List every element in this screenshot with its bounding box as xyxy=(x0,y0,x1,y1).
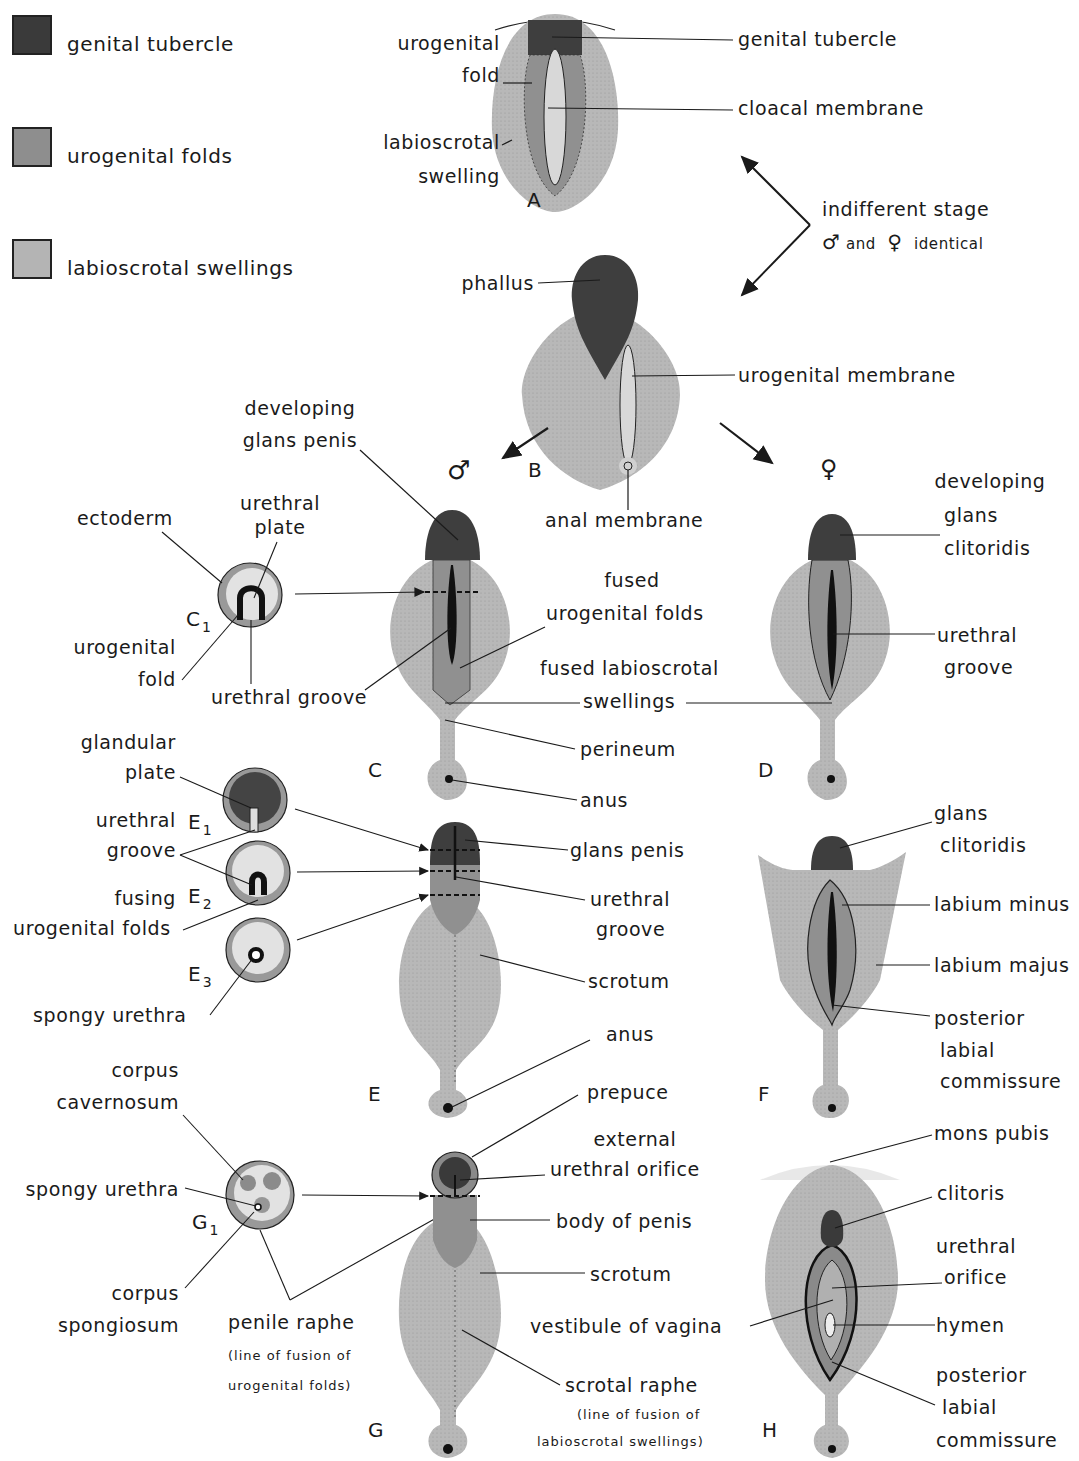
label-c1-urogenital: urogenital xyxy=(73,632,176,663)
label-g1-note-1: (line of fusion of xyxy=(228,1346,351,1366)
figure-c xyxy=(390,510,510,800)
label-c1-ectoderm: ectoderm xyxy=(77,503,173,534)
label-c1-plate: plate xyxy=(240,512,320,543)
section-subscript: 1 xyxy=(210,1222,219,1238)
label-d-urethral: urethral xyxy=(937,620,1017,651)
label-f-clitoridis: clitoridis xyxy=(940,830,1026,861)
section-e2 xyxy=(226,841,290,905)
label-e-panel-urethral: urethral xyxy=(590,884,670,915)
label-indifferent-stage: indifferent stage xyxy=(822,194,989,225)
legend-genital-tubercle: genital tubercle xyxy=(67,32,234,56)
indifferent-arrows xyxy=(742,157,810,295)
label-g1-note-2: urogenital folds) xyxy=(228,1376,351,1396)
label-e-groove: groove xyxy=(107,835,176,866)
figure-d xyxy=(770,514,890,800)
label-a-fold: fold xyxy=(462,60,500,91)
label-e-fusing: fusing xyxy=(114,883,176,914)
label-c-developing: developing xyxy=(230,393,370,424)
female-symbol-icon: ♀ xyxy=(887,230,902,254)
male-symbol-icon: ♂ xyxy=(447,455,470,485)
figure-b xyxy=(522,255,680,490)
panel-letter-e: E xyxy=(368,1082,381,1106)
label-e-plate: plate xyxy=(125,757,176,788)
label-c-perineum: perineum xyxy=(580,734,676,765)
label-h-orifice: orifice xyxy=(944,1262,1007,1293)
label-a-labioscrotal: labioscrotal xyxy=(383,127,500,158)
label-h-commissure: commissure xyxy=(936,1425,1057,1456)
label-g-scrotal-raphe: scrotal raphe xyxy=(565,1370,698,1401)
label-g1-spongy-urethra: spongy urethra xyxy=(26,1174,179,1205)
section-label-e1: E1 xyxy=(188,810,212,838)
label-d-clitoridis: clitoridis xyxy=(944,533,1030,564)
label-d-developing: developing xyxy=(925,466,1055,497)
panel-letter-b: B xyxy=(528,458,542,482)
section-c1 xyxy=(218,563,282,627)
panel-letter-h: H xyxy=(762,1418,777,1442)
label-g-prepuce: prepuce xyxy=(587,1077,669,1108)
label-e-glans-penis: glans penis xyxy=(570,835,685,866)
legend-swatches xyxy=(13,16,51,278)
male-symbol-icon: ♂ xyxy=(822,230,841,254)
panel-letter-a: A xyxy=(527,188,541,212)
label-b-anal-membrane: anal membrane xyxy=(545,505,703,536)
label-a-swelling: swelling xyxy=(418,161,500,192)
label-h-hymen: hymen xyxy=(936,1310,1005,1341)
section-subscript: 2 xyxy=(203,896,212,912)
label-g1-corpus-2: corpus xyxy=(112,1278,179,1309)
label-e-urogenital-folds: urogenital folds xyxy=(13,913,171,944)
label-and: and xyxy=(846,235,876,253)
label-c-urogenital-folds: urogenital folds xyxy=(546,598,704,629)
label-a-genital-tubercle: genital tubercle xyxy=(738,24,897,55)
label-g1-cavernosum: cavernosum xyxy=(56,1087,179,1118)
label-b-phallus: phallus xyxy=(462,268,534,299)
section-letter: E xyxy=(188,810,201,834)
label-c-fused-labioscrotal: fused labioscrotal xyxy=(540,653,719,684)
label-c-anus: anus xyxy=(580,785,628,816)
label-f-labium-minus: labium minus xyxy=(934,889,1070,920)
label-h-clitoris: clitoris xyxy=(937,1178,1005,1209)
panel-letter-g: G xyxy=(368,1418,384,1442)
panel-letter-d: D xyxy=(758,758,773,782)
label-e-urethral: urethral xyxy=(96,805,176,836)
section-letter: E xyxy=(188,884,201,908)
figure-e xyxy=(399,822,501,1118)
label-f-labial: labial xyxy=(940,1035,995,1066)
label-g1-corpus: corpus xyxy=(112,1055,179,1086)
label-f-commissure: commissure xyxy=(940,1066,1061,1097)
e-sections-leaders xyxy=(180,777,428,1015)
label-c1-fold: fold xyxy=(138,664,176,695)
section-g1-leaders xyxy=(183,1115,438,1300)
label-d-groove: groove xyxy=(944,652,1013,683)
legend-labioscrotal-swellings: labioscrotal swellings xyxy=(67,256,294,280)
label-g-body-of-penis: body of penis xyxy=(556,1206,692,1237)
label-h-labial: labial xyxy=(942,1392,997,1423)
label-g1-spongiosum: spongiosum xyxy=(58,1310,179,1341)
label-f-posterior: posterior xyxy=(934,1003,1025,1034)
figure-h xyxy=(760,1165,900,1458)
label-e-scrotum: scrotum xyxy=(588,966,670,997)
label-g-scrotum: scrotum xyxy=(590,1259,672,1290)
label-h-posterior: posterior xyxy=(936,1360,1027,1391)
label-identical-word: identical xyxy=(914,235,983,253)
section-subscript: 1 xyxy=(202,619,211,635)
figure-g xyxy=(399,1152,501,1458)
label-g-external: external xyxy=(545,1124,725,1155)
label-c-swellings: swellings xyxy=(583,686,675,717)
label-identical: ♂ and ♀ identical xyxy=(822,227,983,260)
female-symbol-icon: ♀ xyxy=(820,455,838,483)
label-a-cloacal-membrane: cloacal membrane xyxy=(738,93,924,124)
label-b-urogenital-membrane: urogenital membrane xyxy=(738,360,956,391)
label-c-glans-penis: glans penis xyxy=(230,425,370,456)
label-e-spongy-urethra: spongy urethra xyxy=(33,1000,186,1031)
label-e-glandular: glandular xyxy=(81,727,176,758)
label-f-labium-majus: labium majus xyxy=(934,950,1069,981)
section-subscript: 3 xyxy=(203,974,212,990)
section-g1 xyxy=(226,1161,294,1229)
section-label-g1: G1 xyxy=(192,1210,218,1238)
label-g-note-2: labioscrotal swellings) xyxy=(537,1432,704,1452)
section-label-c1: C1 xyxy=(186,607,211,635)
legend-urogenital-folds: urogenital folds xyxy=(67,144,233,168)
section-letter: E xyxy=(188,962,201,986)
label-c-fused: fused xyxy=(570,565,694,596)
label-d-glans: glans xyxy=(944,500,998,531)
